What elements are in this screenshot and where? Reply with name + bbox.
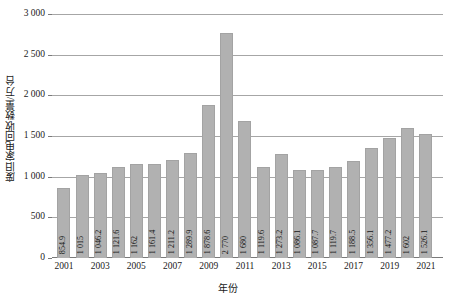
bar-value-label: 1 086.1 [295,229,303,254]
bar-item[interactable]: 2 770 [220,33,233,258]
y-axis-tick [48,258,52,259]
x-axis-title-text: 年份 [218,283,238,294]
bar[interactable] [220,33,233,258]
bar-item[interactable]: 1 602 [401,128,414,258]
y-axis-title-text: 废旧家电回收数量/万台 [3,76,18,182]
bar-item[interactable]: 1 878.6 [202,105,215,258]
bar-value-label: 1 161.4 [150,229,158,254]
x-axis-tick-labels: 2001200320052007200920112013201520172019… [52,262,443,276]
x-axis-tick-label: 2003 [91,262,110,272]
bar-value-label: 1 015 [77,236,85,254]
x-axis-tick-label: 2007 [163,262,182,272]
bar-item[interactable]: 1 526.1 [419,134,432,258]
bar-value-label: 1 211.2 [168,230,176,254]
bar-item[interactable]: 1 477.2 [383,138,396,258]
bar-value-label: 1 188.5 [349,229,357,254]
bar-item[interactable]: 1 086.1 [293,170,306,258]
x-axis-tick-label: 2021 [416,262,435,272]
bar-value-label: 1 119.6 [258,230,266,254]
bar-value-label: 1 477.2 [385,229,393,254]
y-axis-tick-label: 1 500 [24,131,45,141]
bar-item[interactable]: 1 289.9 [184,153,197,258]
bar-value-label: 854.9 [59,236,67,254]
bar-value-label: 1 526.1 [421,229,429,254]
bar-item[interactable]: 1 119.7 [329,167,342,258]
bar-value-label: 1 119.7 [331,230,339,254]
bar-item[interactable]: 1 161.4 [148,164,161,258]
bar-item[interactable]: 1 356.1 [365,148,378,258]
bar-item[interactable]: 854.9 [57,188,70,258]
bar-value-label: 1 087.7 [313,229,321,254]
y-axis-tick-label: 500 [31,213,45,223]
bar-value-label: 1 602 [403,236,411,254]
bar-item[interactable]: 1 119.6 [257,167,270,258]
bar-value-label: 1 878.6 [204,229,212,254]
plot-area: 05001 0001 5002 0002 5003 000 854.91 015… [52,14,443,258]
bar-item[interactable]: 1 046.2 [94,173,107,258]
bar-value-label: 1 680 [240,236,248,254]
y-axis-tick-label: 1 000 [24,172,45,182]
y-axis-tick-label: 0 [40,253,45,263]
bar-item[interactable]: 1 121.6 [112,167,125,258]
bar-value-label: 1 356.1 [367,229,375,254]
bar-item[interactable]: 1 015 [76,175,89,258]
bar-item[interactable]: 1 087.7 [311,170,324,258]
y-axis-tick-label: 2 000 [24,91,45,101]
bar-item[interactable]: 1 273.2 [275,154,288,258]
x-axis-tick-label: 2019 [380,262,399,272]
x-axis-tick-label: 2001 [54,262,73,272]
y-axis-tick-label: 2 500 [24,50,45,60]
bar-value-label: 1 121.6 [114,229,122,254]
bar-value-label: 1 162 [132,236,140,254]
x-axis-tick-label: 2015 [308,262,327,272]
x-axis-tick-label: 2013 [272,262,291,272]
bar-series: 854.91 0151 046.21 121.61 1621 161.41 21… [52,14,443,258]
x-axis-tick-label: 2009 [199,262,218,272]
bar-chart: 废旧家电回收数量/万台 05001 0001 5002 0002 5003 00… [0,0,455,303]
bar-value-label: 1 273.2 [277,229,285,254]
y-axis-tick-label: 3 000 [24,9,45,19]
bar-item[interactable]: 1 211.2 [166,160,179,259]
bar-item[interactable]: 1 188.5 [347,161,360,258]
bar-value-label: 1 289.9 [186,229,194,254]
bar-item[interactable]: 1 162 [130,164,143,259]
x-axis-title: 年份 [0,280,455,295]
x-axis-tick-label: 2017 [344,262,363,272]
x-axis-tick-label: 2011 [236,262,255,272]
y-axis-title: 废旧家电回收数量/万台 [2,0,18,258]
bar-value-label: 2 770 [222,236,230,254]
bar-value-label: 1 046.2 [96,229,104,254]
x-axis-tick-label: 2005 [127,262,146,272]
bar-item[interactable]: 1 680 [238,121,251,258]
